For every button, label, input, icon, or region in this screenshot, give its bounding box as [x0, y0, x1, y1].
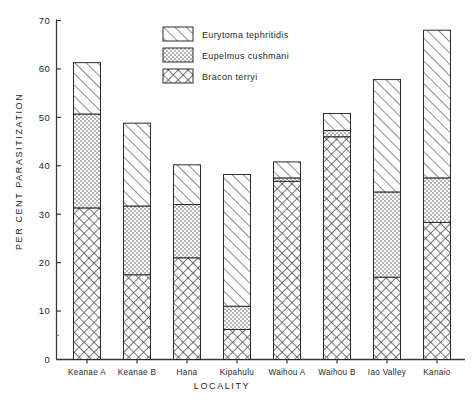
bar-group[interactable]	[274, 162, 301, 360]
bar-segment-cross-hatch	[124, 275, 151, 360]
x-tick-label: Keanae A	[68, 368, 106, 377]
bar-segment-cross-hatch	[324, 137, 351, 360]
bar-group[interactable]	[424, 30, 451, 359]
x-tick-label: Kipahulu	[220, 368, 254, 377]
bar-group[interactable]	[124, 123, 151, 359]
bar-segment-cross-hatch	[374, 277, 401, 359]
bar-segment-cross-hatch	[274, 181, 301, 359]
x-tick-label: Iao Valley	[368, 368, 407, 377]
y-tick-label: 0	[45, 354, 51, 365]
bar-segment-diagonal-hatch	[224, 175, 251, 307]
legend-swatch-diagonal-hatch	[163, 27, 193, 41]
chart-legend: Eurytoma tephritidisEupelmus cushmaniBra…	[163, 27, 289, 83]
plot-area: 010203040506070Keanae AKeanae BHanaKipah…	[39, 15, 465, 377]
bar-segment-diagonal-hatch	[324, 113, 351, 130]
bar-segment-diagonal-hatch	[374, 80, 401, 192]
bar-segment-stipple	[324, 130, 351, 136]
legend-label: Bracon terryi	[202, 72, 258, 82]
legend-label: Eurytoma tephritidis	[202, 30, 289, 40]
x-tick-label: Kanaio	[423, 368, 450, 377]
y-tick-label: 30	[39, 209, 51, 220]
bar-group[interactable]	[324, 113, 351, 359]
bar-group[interactable]	[174, 165, 201, 360]
bar-segment-cross-hatch	[174, 258, 201, 360]
bar-group[interactable]	[74, 63, 101, 360]
y-tick-label: 60	[39, 63, 51, 74]
bar-segment-diagonal-hatch	[174, 165, 201, 205]
parasitization-bar-chart: 010203040506070Keanae AKeanae BHanaKipah…	[0, 0, 475, 404]
x-tick-label: Hana	[177, 368, 198, 377]
bar-segment-diagonal-hatch	[274, 162, 301, 178]
legend-swatch-stipple	[163, 48, 193, 62]
bar-segment-cross-hatch	[74, 208, 101, 360]
bar-segment-stipple	[74, 114, 101, 208]
bar-segment-cross-hatch	[424, 222, 451, 359]
bar-segment-stipple	[174, 205, 201, 258]
bar-group[interactable]	[224, 175, 251, 360]
y-tick-label: 50	[39, 112, 51, 123]
bar-segment-diagonal-hatch	[124, 123, 151, 206]
bar-group[interactable]	[374, 80, 401, 360]
chart-canvas: 010203040506070Keanae AKeanae BHanaKipah…	[0, 0, 475, 404]
legend-swatch-cross-hatch	[163, 69, 193, 83]
y-tick-label: 20	[39, 257, 51, 268]
bar-segment-stipple	[124, 206, 151, 275]
y-tick-label: 70	[39, 15, 51, 26]
bar-segment-cross-hatch	[224, 329, 251, 359]
y-tick-label: 40	[39, 160, 51, 171]
bar-segment-stipple	[224, 306, 251, 329]
legend-label: Eupelmus cushmani	[202, 51, 289, 61]
bar-segment-stipple	[424, 178, 451, 223]
bar-segment-diagonal-hatch	[74, 63, 101, 114]
x-tick-label: Waihou A	[268, 368, 305, 377]
y-tick-label: 10	[39, 305, 51, 316]
x-tick-label: Waihou B	[318, 368, 356, 377]
bar-segment-stipple	[274, 178, 301, 181]
bar-segment-diagonal-hatch	[424, 30, 451, 178]
x-tick-label: Keanae B	[118, 368, 157, 377]
y-axis-title: PER CENT PARASITIZATION	[14, 93, 24, 250]
bar-segment-stipple	[374, 192, 401, 277]
x-axis-title: LOCALITY	[194, 381, 250, 391]
